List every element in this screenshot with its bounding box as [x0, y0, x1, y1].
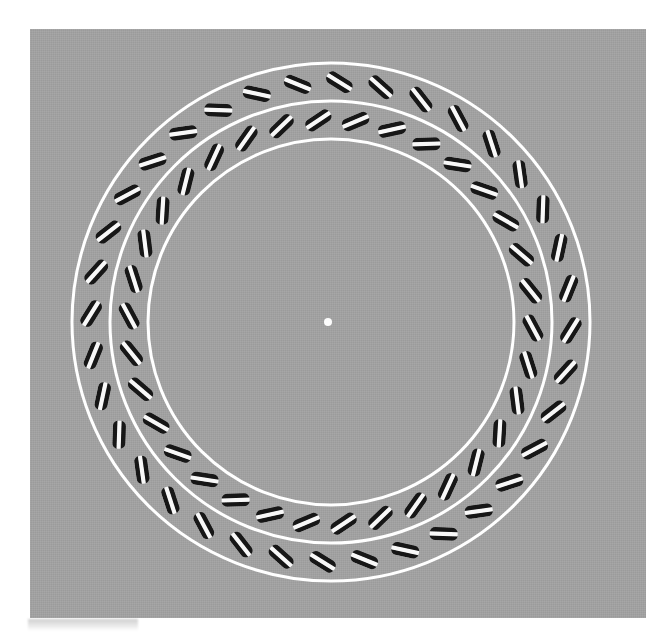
inner-ring-element	[254, 505, 286, 525]
outer-ring-element	[281, 73, 314, 97]
outer-ring-element	[493, 471, 526, 493]
figure-page	[0, 0, 666, 633]
outer-ring-element	[551, 356, 581, 387]
outer-ring-element	[511, 158, 528, 190]
outer-ring-element	[535, 194, 549, 224]
inner-ring-element	[489, 208, 522, 235]
inner-ring-element	[220, 493, 250, 507]
outer-ring-element	[78, 297, 105, 330]
inner-ring-element	[411, 137, 441, 151]
outer-ring-element	[428, 526, 458, 540]
inner-ring-element	[508, 385, 525, 416]
inner-ring-element	[466, 446, 486, 478]
inner-ring-element	[516, 275, 545, 307]
outer-ring-element	[266, 542, 297, 572]
inner-ring-element	[155, 195, 170, 226]
outer-ring-element	[348, 548, 381, 572]
outer-ring-element	[480, 127, 502, 160]
outer-ring-element	[111, 182, 144, 208]
scan-artifact-smudge	[28, 619, 138, 631]
outer-ring-element	[406, 84, 435, 116]
outer-ring-element	[203, 103, 233, 117]
inner-ring-element	[232, 123, 260, 155]
inner-ring-element	[302, 107, 334, 135]
outer-ring-element	[136, 151, 169, 173]
outer-ring-element	[306, 548, 339, 575]
inner-ring-element	[435, 470, 460, 503]
outer-ring-element	[93, 380, 112, 412]
inner-ring-element	[202, 141, 227, 174]
stimulus-panel	[30, 29, 646, 618]
inner-ring-element	[161, 442, 194, 465]
outer-ring-element	[93, 218, 125, 247]
inner-ring-element	[492, 418, 507, 449]
inner-ring-element	[266, 111, 297, 142]
inner-ring-element	[123, 263, 145, 296]
inner-ring-element	[401, 489, 429, 521]
outer-ring-element	[323, 69, 356, 96]
outer-ring-element	[537, 397, 569, 426]
inner-ring-element	[176, 165, 196, 197]
outer-ring-element	[82, 339, 106, 372]
outer-ring-element	[557, 272, 581, 305]
inner-ring-element	[376, 120, 408, 140]
element-band	[411, 146, 441, 152]
inner-ring-element	[442, 156, 474, 174]
inner-ring-element	[520, 312, 546, 345]
inner-ring-element	[327, 510, 359, 538]
outer-ring-element	[463, 502, 495, 519]
inner-ring-element	[125, 374, 157, 404]
inner-ring-element	[140, 410, 173, 437]
outer-ring-element	[227, 528, 256, 560]
outer-ring-element	[549, 232, 568, 264]
inner-ring-element	[189, 470, 221, 488]
fixation-dot-layer	[324, 318, 332, 326]
fixation-dot	[324, 318, 332, 326]
outer-ring-element	[445, 102, 471, 135]
inner-ring-element	[365, 502, 396, 533]
inner-ring-element	[137, 228, 154, 259]
outer-ring-element	[191, 509, 217, 542]
inner-ring-element	[290, 510, 323, 534]
outer-ring-element	[389, 540, 421, 559]
inner-ring-element	[116, 300, 142, 333]
inner-ring-element	[506, 240, 538, 270]
outer-ring-element	[241, 84, 273, 103]
outer-ring-element	[133, 454, 150, 486]
outer-ring-element	[167, 124, 199, 141]
inner-ring-element	[117, 337, 146, 369]
outer-ring-element	[557, 314, 584, 347]
outer-ring-element	[518, 436, 551, 462]
outer-ring-element	[365, 72, 396, 102]
ring-figure-svg	[30, 29, 646, 618]
outer-ring-element	[112, 419, 126, 449]
inner-ring-element	[517, 349, 539, 382]
inner-ring-element	[339, 110, 372, 134]
inner-ring-element	[468, 179, 501, 202]
outer-ring-element	[160, 484, 182, 517]
outer-ring-element	[81, 257, 111, 288]
element-band	[220, 493, 250, 499]
